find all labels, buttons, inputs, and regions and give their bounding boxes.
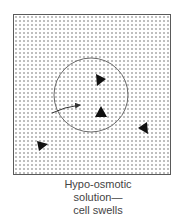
caption-line-3: cell swells	[0, 204, 176, 216]
solvent-dot-field	[14, 15, 170, 174]
solution-container	[14, 15, 171, 175]
caption-line-2: solution—	[0, 191, 176, 203]
caption-line-1: Hypo-osmotic	[0, 178, 176, 190]
